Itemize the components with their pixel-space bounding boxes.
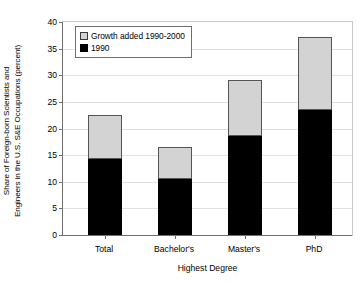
y-tick-label: 20: [47, 124, 57, 134]
plot-area: 0 5 10 15 20 25 30: [62, 22, 352, 236]
y-tick-label: 40: [47, 17, 57, 27]
legend-item-1990: 1990: [80, 42, 185, 54]
y-tick-mark: [59, 22, 63, 23]
bar-segment-growth: [88, 115, 122, 159]
legend-label-1990: 1990: [91, 43, 109, 53]
y-axis-title: Share of Foreign-born Scientists and Eng…: [2, 18, 32, 244]
x-tick-label-phd: PhD: [306, 244, 323, 254]
bar-masters: [228, 80, 262, 235]
y-tick-label: 25: [47, 97, 57, 107]
bar-segment-growth: [158, 147, 192, 179]
x-tick-mark: [105, 235, 106, 239]
x-tick-mark: [315, 235, 316, 239]
y-tick-label: 5: [52, 203, 57, 213]
bar-segment-growth: [298, 37, 332, 110]
legend-swatch-1990-icon: [80, 44, 88, 52]
y-tick-mark: [59, 129, 63, 130]
bar-segment-1990: [228, 136, 262, 235]
y-tick-mark: [59, 49, 63, 50]
x-tick-mark: [245, 235, 246, 239]
bar-segment-growth: [228, 80, 262, 136]
legend-label-growth: Growth added 1990-2000: [91, 31, 185, 41]
y-tick-mark: [59, 75, 63, 76]
x-tick-label-masters: Master's: [228, 244, 260, 254]
bar-phd: [298, 37, 332, 235]
bar-bachelors: [158, 147, 192, 235]
y-tick-label: 30: [47, 70, 57, 80]
y-tick-mark: [59, 102, 63, 103]
y-tick-mark: [59, 235, 63, 236]
x-axis-title: Highest Degree: [62, 263, 353, 273]
bar-total: [88, 115, 122, 235]
y-tick-label: 10: [47, 177, 57, 187]
y-tick-mark: [59, 182, 63, 183]
y-tick-label: 15: [47, 150, 57, 160]
x-tick-label-bachelors: Bachelor's: [154, 244, 194, 254]
stacked-bar-chart: Share of Foreign-born Scientists and Eng…: [0, 0, 364, 283]
y-tick-label: 0: [52, 230, 57, 240]
y-tick-label: 35: [47, 44, 57, 54]
bar-segment-1990: [88, 159, 122, 235]
y-tick-mark: [59, 155, 63, 156]
legend-item-growth: Growth added 1990-2000: [80, 30, 185, 42]
legend-swatch-growth-icon: [80, 32, 88, 40]
bar-segment-1990: [158, 179, 192, 235]
x-tick-label-total: Total: [95, 244, 113, 254]
bar-segment-1990: [298, 110, 332, 235]
x-tick-mark: [175, 235, 176, 239]
chart-legend: Growth added 1990-2000 1990: [75, 26, 192, 58]
y-tick-mark: [59, 208, 63, 209]
